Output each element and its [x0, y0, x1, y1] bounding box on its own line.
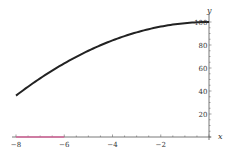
y-tick-label: 60 — [199, 65, 208, 73]
x-axis-label: x — [218, 132, 223, 141]
x-tick-label: −6 — [59, 141, 70, 149]
x-tick-label: −2 — [156, 141, 166, 149]
y-tick-label: 20 — [199, 111, 208, 119]
x-tick-label: −4 — [107, 141, 118, 149]
chart: −8−6−4−220406080100xy — [0, 0, 226, 159]
y-tick-label: 40 — [199, 88, 208, 96]
curve-line — [16, 22, 209, 96]
y-tick-label: 100 — [194, 19, 207, 27]
y-axis-label: y — [206, 6, 212, 15]
y-tick-label: 80 — [199, 42, 208, 50]
plot-series — [16, 22, 209, 137]
x-tick-label: −8 — [11, 141, 21, 149]
